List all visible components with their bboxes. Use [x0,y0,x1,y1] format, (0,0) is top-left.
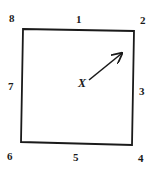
position-label-6: 6 [7,150,13,162]
position-label-8: 8 [9,12,15,24]
position-label-1: 1 [76,13,82,25]
center-label: X [77,76,87,90]
diagram-canvas: X 8 1 2 7 3 6 5 4 [0,0,155,171]
position-label-3: 3 [139,85,145,97]
position-label-5: 5 [73,151,79,163]
direction-arrow-icon [89,54,121,80]
position-label-7: 7 [8,80,14,92]
position-label-2: 2 [140,14,146,26]
position-label-4: 4 [138,152,144,164]
